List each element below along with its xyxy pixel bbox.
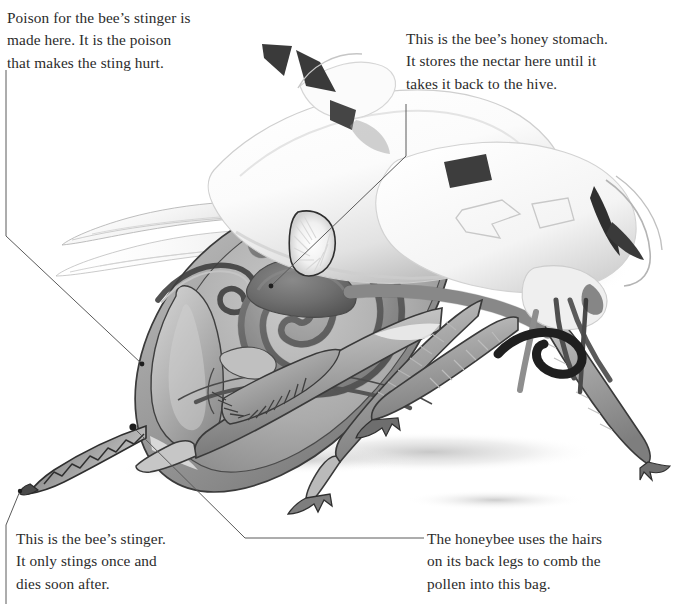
middle-leg-foot [288,494,332,514]
coxa-group [289,211,335,276]
caption-stinger: This is the bee’s stinger. It only sting… [16,528,266,595]
caption-pollen-basket: The honeybee uses the hairs on its back … [427,528,677,595]
back-leg-right-foot [640,462,670,480]
diagram-canvas: Poison for the bee’s stinger is made her… [0,0,679,604]
tuft-left [262,44,292,76]
leader-poison-gland [6,70,142,364]
coxa-lobe [289,211,335,276]
caption-poison-gland: Poison for the bee’s stinger is made her… [7,7,259,74]
caption-honey-stomach: This is the bee’s honey stomach. It stor… [406,28,678,95]
